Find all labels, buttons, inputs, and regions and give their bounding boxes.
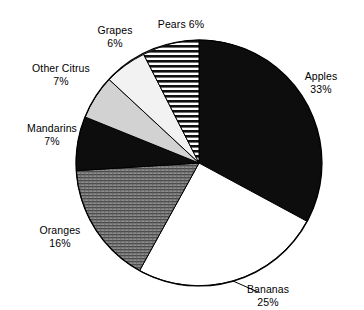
pie-chart: Apples 33% Bananas 25% Oranges 16% Manda… (0, 0, 364, 310)
pie-chart-canvas (0, 0, 364, 310)
pie-label-other-citrus: Other Citrus 7% (14, 62, 108, 87)
pie-label-bananas: Bananas 25% (222, 283, 314, 308)
pie-slices (76, 40, 321, 286)
pie-label-pears: Pears 6% (144, 18, 218, 31)
pie-label-apples: Apples 33% (288, 70, 354, 95)
pie-label-oranges: Oranges 16% (18, 224, 102, 249)
pie-label-grapes: Grapes 6% (84, 24, 146, 49)
pie-label-mandarins: Mandarins 7% (6, 122, 98, 147)
